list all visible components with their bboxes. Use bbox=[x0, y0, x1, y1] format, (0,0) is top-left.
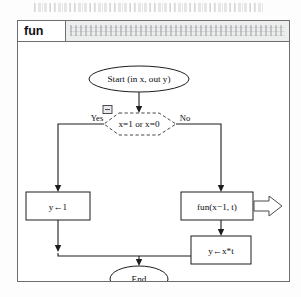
node-assign2[interactable]: y←x*t bbox=[191, 236, 251, 264]
node-assign1[interactable]: y←1 bbox=[26, 192, 90, 220]
node-call[interactable]: fun(x−1, t) bbox=[181, 192, 253, 220]
tab-fun[interactable]: fun bbox=[18, 21, 66, 41]
node-start[interactable]: Start (in x, out y) bbox=[89, 66, 189, 92]
scan-artifact bbox=[34, 3, 264, 12]
node-decision-label: x=1 or x=0 bbox=[119, 119, 160, 129]
title-bar: fun bbox=[18, 21, 289, 42]
node-start-label: Start (in x, out y) bbox=[107, 74, 170, 84]
node-end[interactable]: End bbox=[110, 266, 168, 281]
connector-call-to-assign2 bbox=[218, 220, 224, 236]
node-decision[interactable]: x=1 or x=0 bbox=[104, 113, 176, 135]
edge-label-no: No bbox=[180, 113, 191, 123]
node-assign2-label: y←x*t bbox=[208, 246, 234, 256]
edge-label-yes: Yes bbox=[91, 113, 104, 123]
node-end-label: End bbox=[132, 274, 147, 281]
flowchart-canvas: Start (in x, out y) x=1 or x=0 Yes No y←… bbox=[18, 42, 289, 281]
node-assign1-label: y←1 bbox=[49, 202, 68, 212]
collapse-toggle-icon[interactable] bbox=[103, 106, 112, 114]
node-call-label: fun(x−1, t) bbox=[197, 202, 237, 212]
connector-merge-to-end bbox=[136, 256, 142, 266]
connector-yes-to-assign1 bbox=[55, 124, 104, 192]
recursion-block-arrow[interactable] bbox=[254, 196, 282, 216]
connector-assign1-to-merge bbox=[55, 220, 139, 256]
diagram-window: fun bbox=[17, 20, 290, 282]
connector-start-to-decision bbox=[136, 92, 142, 113]
title-bar-filler bbox=[66, 21, 289, 41]
tab-fun-label: fun bbox=[24, 25, 43, 38]
connector-no-to-call bbox=[176, 124, 224, 192]
